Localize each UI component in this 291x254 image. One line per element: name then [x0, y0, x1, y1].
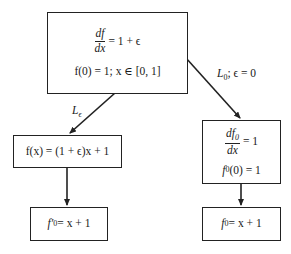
top-box: df dx = 1 + ϵ f(0) = 1; x ∈ [0, 1]	[47, 12, 188, 94]
label-subscript: ϵ	[78, 110, 81, 119]
equation-rhs: = 1 + ϵ	[108, 36, 140, 48]
eq-rhs: = x + 1	[229, 218, 262, 230]
derivative-fraction: df0 dx	[225, 128, 240, 157]
eq-rhs: = x + 1	[57, 218, 90, 230]
fraction-numerator: df0	[225, 128, 240, 144]
right-bottom-eq: f0 = x + 1	[221, 218, 261, 230]
left-mid-solution: f(x) = (1 + ϵ)x + 1	[26, 146, 110, 158]
left-bottom-box: f′0 = x + 1	[30, 207, 108, 241]
top-box-initial-condition: f(0) = 1; x ∈ [0, 1]	[74, 66, 160, 78]
right-mid-box: df0 dx = 1 f0(0) = 1	[202, 120, 281, 184]
right-mid-derivative-eq: df0 dx = 1	[225, 128, 258, 157]
left-arrow-label: Lϵ	[72, 104, 82, 119]
numerator-subscript: 0	[235, 133, 239, 142]
ic-rhs: (0) = 1	[229, 165, 260, 177]
derivative-fraction: df dx	[95, 28, 106, 54]
label-condition: ; ϵ = 0	[227, 67, 256, 79]
left-bottom-eq: f′0 = x + 1	[48, 218, 91, 230]
fraction-numerator: df	[95, 28, 106, 42]
right-mid-initial-condition: f0(0) = 1	[222, 165, 261, 177]
fraction-denominator: dx	[95, 42, 106, 55]
equation-rhs: = 1	[243, 136, 258, 148]
fraction-denominator: dx	[227, 144, 238, 157]
top-box-derivative-eq: df dx = 1 + ϵ	[95, 28, 141, 54]
numerator-text: df	[226, 127, 235, 139]
right-arrow-label: L0; ϵ = 0	[217, 67, 256, 82]
right-bottom-box: f0 = x + 1	[202, 207, 281, 241]
left-mid-box: f(x) = (1 + ϵ)x + 1	[13, 135, 122, 168]
